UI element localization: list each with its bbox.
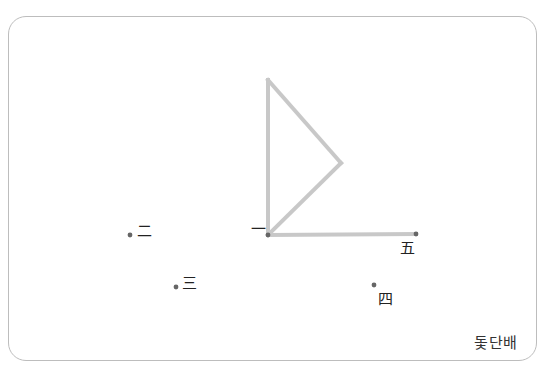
point-dot (174, 285, 179, 290)
segment-3 (268, 234, 416, 235)
point-label: 四 (378, 290, 393, 308)
segment-2 (268, 163, 341, 235)
point-label: 二 (137, 222, 152, 240)
point-dot (372, 283, 377, 288)
point-dot (266, 233, 271, 238)
sailboat-figure: 一二三四五 (0, 0, 545, 372)
figure-points (128, 232, 419, 290)
segment-1 (268, 80, 341, 163)
point-dot (414, 232, 419, 237)
point-label: 三 (182, 274, 197, 292)
point-dot (128, 233, 133, 238)
point-label: 一 (251, 220, 266, 238)
figure-segments (268, 80, 416, 235)
point-label: 五 (400, 239, 415, 257)
figure-caption: 돛단배 (474, 331, 518, 352)
